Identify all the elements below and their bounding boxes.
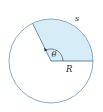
- arc-label: s: [75, 14, 79, 23]
- sector-diagram: s θ R: [0, 0, 103, 112]
- angle-label: θ: [52, 50, 57, 59]
- shaded-sector: [33, 19, 93, 61]
- radius-label: R: [65, 64, 73, 74]
